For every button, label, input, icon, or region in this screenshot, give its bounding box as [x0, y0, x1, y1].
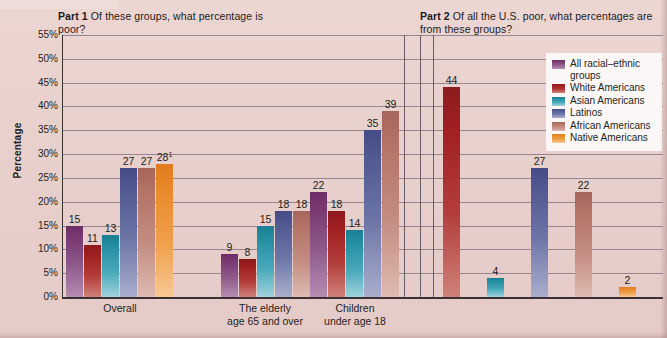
legend-label: Native Americans	[570, 132, 648, 144]
bar: 27	[120, 168, 137, 297]
bar: 22	[575, 192, 592, 297]
legend-swatch-icon	[552, 84, 565, 93]
bar: 9	[221, 254, 238, 297]
bar: 44	[443, 87, 460, 297]
legend-item: Latinos	[552, 107, 656, 119]
y-tick-label: 50%	[24, 53, 58, 64]
bar-value-label: 4	[493, 265, 499, 277]
bar: 27	[531, 168, 548, 297]
figure-canvas: Part 1 Of these groups, what percentage …	[0, 0, 667, 338]
panel-divider-left	[404, 35, 405, 298]
bar-value-label: 35	[367, 117, 379, 129]
part2-title-bold: Part 2	[420, 10, 450, 22]
bar: 8	[239, 259, 256, 297]
bar: 11	[84, 245, 101, 297]
bar-value-label: 8	[245, 246, 251, 258]
bar: 18	[275, 211, 292, 297]
bar: 281	[156, 164, 173, 297]
legend-swatch-icon	[552, 134, 565, 143]
legend-swatch-icon	[552, 109, 565, 118]
legend-item: African Americans	[552, 120, 656, 132]
bar: 35	[364, 130, 381, 297]
part2-axis-line	[433, 35, 434, 298]
legend-item: Native Americans	[552, 132, 656, 144]
bar: 15	[66, 226, 83, 297]
x-category-label: Childrenunder age 18	[300, 302, 410, 327]
part2-title: Part 2 Of all the U.S. poor, what percen…	[420, 10, 660, 35]
bar: 39	[382, 111, 399, 297]
bar-value-label: 18	[278, 198, 290, 210]
legend: All racial–ethnic groupsWhite AmericansA…	[546, 53, 662, 151]
bar-value-label: 15	[69, 213, 81, 225]
bar: 18	[293, 211, 310, 297]
bar: 18	[328, 211, 345, 297]
y-axis-line	[62, 35, 63, 298]
bar-value-label: 27	[534, 155, 546, 167]
legend-item: Asian Americans	[552, 95, 656, 107]
legend-swatch-icon	[552, 97, 565, 106]
bar-value-label: 22	[578, 179, 590, 191]
legend-label: Latinos	[570, 107, 602, 119]
bar-value-label: 281	[157, 150, 173, 163]
y-tick-label: 30%	[24, 148, 58, 159]
legend-swatch-icon	[552, 122, 565, 131]
bar-value-label: 13	[105, 222, 117, 234]
y-tick-label: 25%	[24, 172, 58, 183]
legend-label: All racial–ethnic groups	[570, 58, 656, 81]
bar-value-label: 18	[331, 198, 343, 210]
bar: 14	[346, 230, 363, 297]
legend-item: All racial–ethnic groups	[552, 58, 656, 81]
x-category-label: Overall	[66, 302, 174, 315]
bar-value-label: 39	[385, 98, 397, 110]
bar-value-label: 22	[313, 179, 325, 191]
legend-label: White Americans	[570, 82, 645, 94]
part1-title: Part 1 Of these groups, what percentage …	[58, 10, 288, 35]
bar: 22	[310, 192, 327, 297]
bar-value-label: 9	[227, 241, 233, 253]
bar: 15	[257, 226, 274, 297]
y-tick-label: 0%	[24, 291, 58, 302]
y-tick-label: 35%	[24, 124, 58, 135]
gridline	[62, 35, 663, 36]
bar-value-label: 27	[123, 155, 135, 167]
part1-title-text: Of these groups, what percentage is poor…	[58, 10, 263, 35]
bar-value-label: 11	[87, 232, 98, 244]
legend-swatch-icon	[552, 60, 565, 69]
x-axis-baseline	[62, 297, 663, 299]
legend-item: White Americans	[552, 82, 656, 94]
y-tick-label: 55%	[24, 29, 58, 40]
bar-value-label: 2	[625, 274, 631, 286]
bar-value-label: 27	[141, 155, 153, 167]
part1-title-bold: Part 1	[58, 10, 88, 22]
bar-value-label: 44	[446, 74, 458, 86]
y-tick-label: 10%	[24, 243, 58, 254]
y-tick-label: 20%	[24, 196, 58, 207]
y-tick-label: 15%	[24, 220, 58, 231]
y-tick-label: 45%	[24, 77, 58, 88]
bar-value-label: 18	[296, 198, 308, 210]
bar: 27	[138, 168, 155, 297]
bar: 13	[102, 235, 119, 297]
bar-value-label: 14	[349, 217, 361, 229]
legend-label: Asian Americans	[570, 95, 644, 107]
legend-label: African Americans	[570, 120, 651, 132]
page-edge-shadow-bottom	[0, 332, 667, 338]
bar: 2	[619, 287, 636, 297]
y-tick-label: 40%	[24, 100, 58, 111]
panel-divider-right	[420, 35, 421, 298]
y-axis-ticks: 0%5%10%15%20%25%30%35%40%45%50%55%	[2, 0, 58, 338]
bar-value-label: 15	[260, 213, 272, 225]
page-edge-shadow-right	[660, 0, 667, 338]
part2-title-text: Of all the U.S. poor, what percentages a…	[420, 10, 653, 35]
bar: 4	[487, 278, 504, 297]
y-tick-label: 5%	[24, 267, 58, 278]
